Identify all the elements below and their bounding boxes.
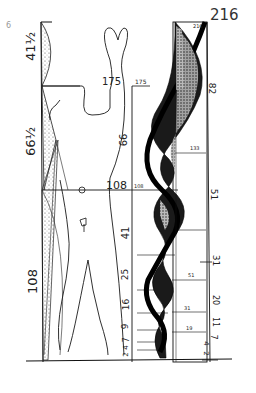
middle-mid-label-108: 108 [134,184,144,189]
spiral-tick-51: 51 [188,273,194,278]
right-label-11: 11 [211,317,219,327]
right-label-31: 31 [211,255,220,266]
middle-label-4: 4 [123,345,130,349]
page-number: 216 [210,8,239,23]
middle-label-41: 41 [121,227,131,240]
left-scale [41,22,130,362]
left-scale-label-108: 108 [26,269,39,294]
spiral-tick-19: 19 [186,326,192,331]
corner-mark: 6 [6,22,11,30]
right-label-4: 4 [202,341,209,345]
hand-glyph [80,218,86,232]
left-scale-label-66-half: 66½ [24,127,37,156]
right-top-label-216: 216 [193,24,203,29]
upper-stipple [41,22,51,86]
middle-label-9: 9 [121,324,130,330]
middle-label-25: 25 [121,269,130,280]
middle-label-7: 7 [123,337,131,342]
right-label-20: 20 [211,295,219,305]
spiral-tick-133: 133 [190,146,200,151]
middle-label-2: 2 [123,352,130,356]
right-label-82: 82 [207,83,216,94]
middle-label-16: 16 [122,299,131,310]
middle-label-66: 66 [119,134,129,147]
left-scale-label-41-half: 41½ [24,32,37,61]
spiral-tick-31: 31 [184,306,190,311]
right-label-51: 51 [209,189,218,200]
right-label-7: 7 [209,334,217,339]
double-spiral [146,22,205,362]
right-label-2: 2 [202,351,209,355]
height-label-175: 175 [102,77,121,87]
ground-line [26,359,232,361]
navel-label-108: 108 [106,180,127,191]
middle-top-label-175: 175 [135,79,146,85]
